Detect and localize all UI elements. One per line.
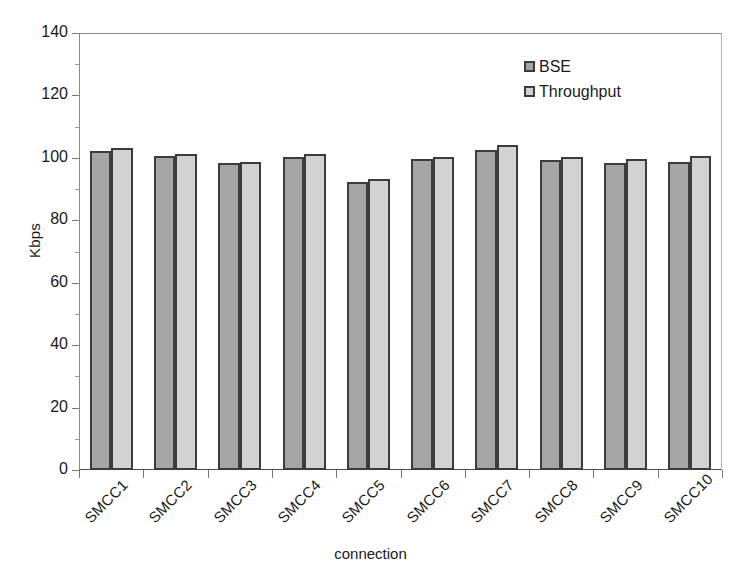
legend-swatch-icon-throughput: [524, 86, 535, 97]
y-tick-label: 20: [22, 399, 68, 415]
bar-throughput-smcc1: [111, 148, 133, 470]
legend-item-bse: BSE: [524, 54, 621, 79]
y-tick-mark: [72, 33, 79, 34]
bar-bse-smcc10: [668, 162, 690, 470]
bar-throughput-smcc4: [304, 154, 326, 470]
bar-throughput-smcc3: [240, 162, 262, 470]
legend: BSE Throughput: [524, 54, 621, 104]
x-tick-label-smcc8: SMCC8: [531, 476, 581, 526]
x-tick-mark: [722, 470, 723, 478]
x-tick-mark: [529, 470, 530, 478]
bar-chart: Kbps 020406080100120140 SMCC1SMCC2SMCC3S…: [0, 0, 741, 588]
bar-bse-smcc4: [283, 157, 305, 470]
y-tick-label: 0: [22, 461, 68, 477]
x-tick-mark: [272, 470, 273, 478]
bar-throughput-smcc9: [626, 159, 648, 470]
bar-throughput-smcc7: [497, 145, 519, 470]
bar-throughput-smcc10: [690, 156, 712, 470]
bar-bse-smcc8: [540, 160, 562, 470]
y-tick-mark: [72, 283, 79, 284]
x-tick-label-smcc10: SMCC10: [660, 470, 716, 526]
x-tick-mark: [336, 470, 337, 478]
bar-throughput-smcc5: [368, 179, 390, 470]
bar-bse-smcc7: [475, 150, 497, 470]
y-tick-mark: [72, 158, 79, 159]
y-tick-label: 140: [22, 24, 68, 40]
bar-bse-smcc6: [411, 159, 433, 470]
y-tick-mark: [72, 408, 79, 409]
bar-bse-smcc3: [218, 163, 240, 470]
y-tick-mark: [72, 470, 79, 471]
x-tick-mark: [79, 470, 80, 478]
x-tick-mark: [401, 470, 402, 478]
x-tick-mark: [208, 470, 209, 478]
x-tick-label-smcc7: SMCC7: [467, 476, 517, 526]
x-tick-label-smcc2: SMCC2: [145, 476, 195, 526]
x-axis-title: connection: [0, 545, 741, 562]
x-tick-label-smcc5: SMCC5: [338, 476, 388, 526]
legend-label-throughput: Throughput: [539, 83, 621, 101]
legend-swatch-icon-bse: [524, 61, 535, 72]
bar-bse-smcc2: [154, 156, 176, 470]
y-tick-label: 40: [22, 336, 68, 352]
y-tick-label: 120: [22, 86, 68, 102]
legend-item-throughput: Throughput: [524, 79, 621, 104]
bar-throughput-smcc2: [175, 154, 197, 470]
bar-bse-smcc5: [347, 182, 369, 470]
x-tick-mark: [658, 470, 659, 478]
y-tick-label: 80: [22, 211, 68, 227]
x-tick-mark: [143, 470, 144, 478]
y-tick-label: 100: [22, 149, 68, 165]
bar-bse-smcc1: [90, 151, 112, 470]
x-tick-label-smcc1: SMCC1: [81, 476, 131, 526]
y-tick-mark: [72, 345, 79, 346]
x-tick-label-smcc9: SMCC9: [596, 476, 646, 526]
x-tick-mark: [465, 470, 466, 478]
y-tick-mark: [72, 220, 79, 221]
x-tick-label-smcc6: SMCC6: [403, 476, 453, 526]
x-tick-label-smcc4: SMCC4: [274, 476, 324, 526]
y-tick-mark: [72, 95, 79, 96]
x-tick-label-smcc3: SMCC3: [210, 476, 260, 526]
bar-bse-smcc9: [604, 163, 626, 470]
bar-throughput-smcc6: [433, 157, 455, 470]
x-tick-mark: [593, 470, 594, 478]
y-tick-label: 60: [22, 274, 68, 290]
bar-throughput-smcc8: [561, 157, 583, 470]
legend-label-bse: BSE: [539, 58, 571, 76]
